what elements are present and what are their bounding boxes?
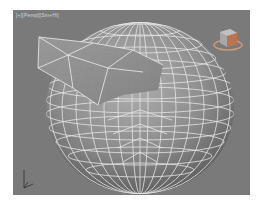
perspective-viewport[interactable]: [+][Persp][Sm+Hi] — [13, 10, 250, 195]
scene-canvas — [13, 10, 250, 195]
axis-tripod-icon — [24, 170, 33, 188]
viewcube-icon[interactable] — [214, 29, 242, 50]
